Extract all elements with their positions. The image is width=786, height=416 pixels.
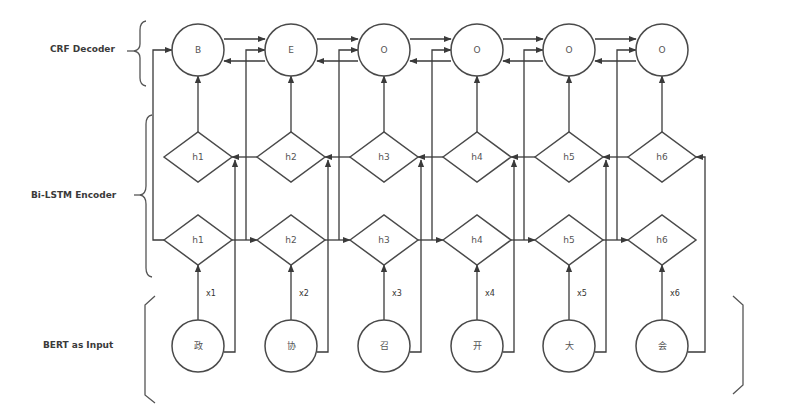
forward-to-crf-arrow [524, 50, 543, 240]
svg-text:E: E [288, 45, 294, 55]
embedding-label: x5 [577, 289, 587, 298]
input-token-node: 政 [172, 320, 224, 372]
input-to-backward-arrow [503, 160, 514, 352]
architecture-diagram: Bh1h1x1政Eh2h2x2协Oh3h3x3召Oh4h4x4开Oh5h5x5大… [0, 0, 786, 416]
backward-lstm-cell: h5 [535, 132, 603, 182]
forward-to-crf-arrow [339, 50, 358, 240]
backward-lstm-cell: h6 [628, 132, 696, 182]
crf-tag-node: B [172, 24, 224, 76]
bilstm-brace [134, 115, 152, 277]
input-token-node: 大 [543, 320, 595, 372]
svg-text:O: O [473, 45, 480, 55]
svg-text:O: O [658, 45, 665, 55]
svg-text:召: 召 [380, 341, 389, 351]
svg-text:O: O [380, 45, 387, 55]
input-brace-right [733, 296, 743, 394]
embedding-label: x4 [485, 289, 495, 298]
input-to-backward-arrow [688, 157, 705, 352]
svg-text:会: 会 [658, 340, 667, 351]
crf-tag-node: O [636, 24, 688, 76]
backward-lstm-cell: h3 [350, 132, 418, 182]
input-brace-left [145, 296, 155, 403]
crf-tag-node: E [265, 24, 317, 76]
svg-text:h3: h3 [378, 235, 389, 245]
backward-lstm-cell: h4 [443, 132, 511, 182]
input-token-node: 开 [451, 320, 503, 372]
forward-to-crf-arrow [617, 50, 636, 240]
svg-text:h6: h6 [656, 235, 668, 245]
forward-to-crf-arrow [432, 50, 451, 240]
svg-text:h6: h6 [656, 152, 668, 162]
embedding-label: x2 [299, 289, 309, 298]
backward-lstm-cell: h1 [164, 132, 232, 182]
svg-text:h5: h5 [563, 235, 574, 245]
svg-text:B: B [195, 45, 201, 55]
svg-text:h2: h2 [285, 235, 296, 245]
forward-to-crf-arrow [246, 50, 265, 240]
svg-text:大: 大 [565, 340, 574, 351]
forward-lstm-cell: h5 [535, 215, 603, 265]
forward-lstm-cell: h3 [350, 215, 418, 265]
crf-tag-node: O [358, 24, 410, 76]
input-to-backward-arrow [317, 160, 328, 352]
svg-text:h1: h1 [192, 152, 203, 162]
svg-text:h4: h4 [471, 235, 483, 245]
embedding-label: x1 [206, 289, 216, 298]
input-token-node: 召 [358, 320, 410, 372]
crf-tag-node: O [543, 24, 595, 76]
svg-text:h5: h5 [563, 152, 574, 162]
forward-lstm-cell: h6 [628, 215, 696, 265]
svg-text:政: 政 [194, 340, 203, 351]
crf-brace [127, 21, 146, 86]
svg-text:h3: h3 [378, 152, 389, 162]
embedding-label: x6 [670, 289, 680, 298]
forward-lstm-cell: h4 [443, 215, 511, 265]
svg-text:h2: h2 [285, 152, 296, 162]
input-to-backward-arrow [595, 160, 606, 352]
embedding-label: x3 [392, 289, 402, 298]
forward-lstm-cell: h2 [257, 215, 325, 265]
svg-text:协: 协 [287, 340, 296, 351]
backward-lstm-cell: h2 [257, 132, 325, 182]
input-token-node: 会 [636, 320, 688, 372]
forward-lstm-cell: h1 [164, 215, 232, 265]
crf-tag-node: O [451, 24, 503, 76]
input-token-node: 协 [265, 320, 317, 372]
svg-text:O: O [565, 45, 572, 55]
svg-text:开: 开 [473, 341, 482, 351]
svg-text:h4: h4 [471, 152, 483, 162]
svg-text:h1: h1 [192, 235, 203, 245]
input-to-backward-arrow [224, 160, 235, 352]
forward-to-crf-arrow [153, 50, 172, 240]
input-to-backward-arrow [410, 160, 421, 352]
